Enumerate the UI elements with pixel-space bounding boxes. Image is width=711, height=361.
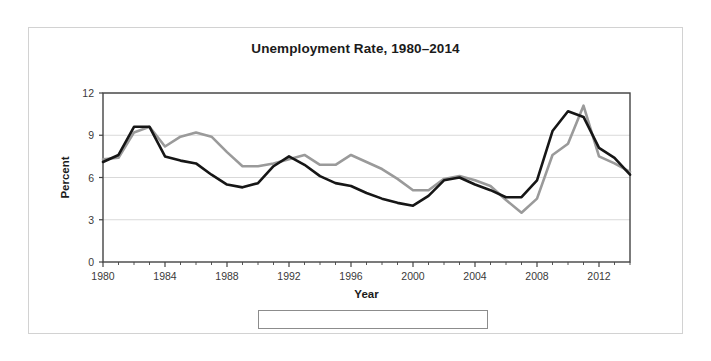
axis-ticks bbox=[99, 93, 630, 267]
xtick-label-2000: 2000 bbox=[401, 270, 425, 282]
data-series bbox=[103, 106, 630, 213]
xtick-label-1984: 1984 bbox=[153, 270, 177, 282]
series-line-new-mexico bbox=[103, 106, 630, 213]
ytick-label-3: 3 bbox=[88, 214, 94, 226]
ytick-label-6: 6 bbox=[88, 172, 94, 184]
xtick-label-2012: 2012 bbox=[587, 270, 611, 282]
xtick-label-1988: 1988 bbox=[215, 270, 239, 282]
xtick-label-2004: 2004 bbox=[463, 270, 487, 282]
ytick-label-12: 12 bbox=[82, 87, 94, 99]
chart-plot-area: 036912 198019841988199219962000200420082… bbox=[0, 0, 711, 361]
chart-figure: Unemployment Rate, 1980–2014 036912 1980… bbox=[0, 0, 711, 361]
xtick-label-2008: 2008 bbox=[525, 270, 549, 282]
ytick-label-0: 0 bbox=[88, 256, 94, 268]
xtick-label-1980: 1980 bbox=[91, 270, 115, 282]
xtick-label-1992: 1992 bbox=[277, 270, 301, 282]
xtick-label-1996: 1996 bbox=[339, 270, 363, 282]
x-axis-title: Year bbox=[354, 288, 379, 300]
x-tick-labels: 198019841988199219962000200420082012 bbox=[91, 270, 611, 282]
ytick-label-9: 9 bbox=[88, 129, 94, 141]
y-tick-labels: 036912 bbox=[82, 87, 94, 268]
legend-box bbox=[258, 310, 488, 329]
y-axis-title: Percent bbox=[59, 156, 71, 198]
